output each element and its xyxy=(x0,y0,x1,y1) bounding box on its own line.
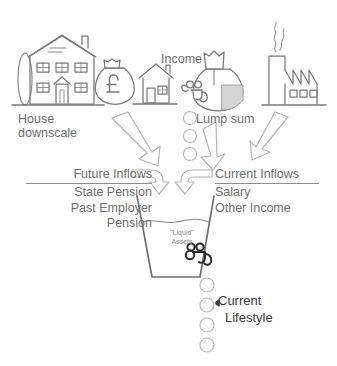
factory-icon xyxy=(262,22,326,105)
droplet-circle-icon xyxy=(200,278,214,352)
current-inflows-block: Current Inflows Salary Other Income xyxy=(215,167,337,216)
future-inflows-item-1: Past Employer xyxy=(71,201,152,215)
down-arrow-icon xyxy=(112,112,160,166)
future-inflows-item-0: State Pension xyxy=(74,185,152,199)
small-house-icon xyxy=(133,64,177,104)
money-bag-pound-icon xyxy=(95,59,134,104)
down-arrow-icon xyxy=(250,112,288,160)
house-downscale-label: House downscale xyxy=(18,112,77,140)
droplet-circle-icon xyxy=(184,112,197,161)
future-inflows-item-2: Pension xyxy=(107,216,152,230)
house-downscale-line1: House xyxy=(18,112,54,126)
large-house-icon xyxy=(12,35,104,105)
current-inflows-heading: Current Inflows xyxy=(215,167,319,184)
liquid-assets-line1: "Liquid" xyxy=(170,229,194,236)
current-inflows-item-0: Salary xyxy=(215,185,250,199)
house-downscale-line2: downscale xyxy=(18,126,77,140)
current-lifestyle-line2: Lifestyle xyxy=(218,310,273,327)
current-inflows-item-1: Other Income xyxy=(215,201,291,215)
current-lifestyle-label: Current Lifestyle xyxy=(218,293,273,326)
diagram-canvas: House downscale Income Lump sum Future I… xyxy=(0,0,337,366)
future-inflows-block: Future Inflows State Pension Past Employ… xyxy=(26,167,152,231)
future-inflows-heading: Future Inflows xyxy=(26,167,152,184)
down-arrow-icon xyxy=(201,122,225,170)
liquid-assets-label: "Liquid" Assets xyxy=(150,228,214,247)
liquid-assets-line2: Assets xyxy=(171,238,192,245)
income-label: Income xyxy=(161,52,202,66)
current-lifestyle-line1: Current xyxy=(218,293,261,308)
curved-arrow-icon xyxy=(175,170,212,194)
lump-sum-label: Lump sum xyxy=(196,112,254,126)
